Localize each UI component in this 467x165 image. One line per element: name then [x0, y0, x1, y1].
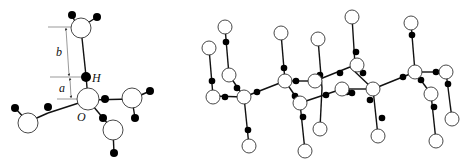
- label-b: b: [56, 45, 62, 59]
- label-H: H: [91, 71, 102, 85]
- dimension-arrow-b: [66, 29, 69, 75]
- oxygen-atom-O: [77, 88, 99, 110]
- right-diagram: [202, 10, 459, 158]
- dimension-arrow-a: [70, 79, 71, 97]
- water-hydrogen-bond-diagram: b a H O: [0, 0, 467, 165]
- label-O: O: [77, 110, 86, 124]
- hydrogen-atom-H: [81, 72, 91, 82]
- left-diagram: b a H O: [11, 11, 154, 157]
- label-a: a: [59, 81, 65, 95]
- oxygen-atom-top: [71, 18, 91, 38]
- oxygen-atoms: [202, 10, 459, 158]
- hydrogen-atoms: [209, 32, 452, 134]
